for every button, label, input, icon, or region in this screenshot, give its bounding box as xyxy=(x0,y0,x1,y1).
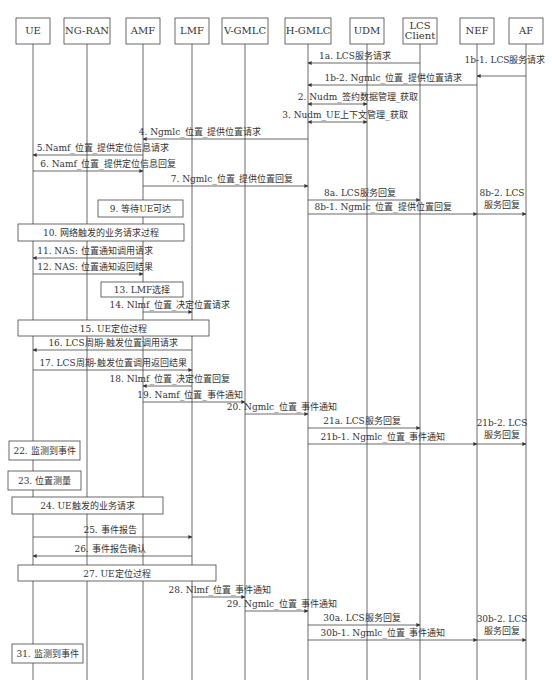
participant-ue: UE xyxy=(16,18,50,44)
process-box: 23. 位置测量 xyxy=(8,471,81,490)
message-arrow: 2. Nudm_签约数据管理_获取 xyxy=(298,91,418,104)
message-label: 25. 事件报告 xyxy=(83,524,136,535)
process-box: 31. 监测到事件 xyxy=(12,644,83,663)
message-label: 8b-1. Ngmlc_位置_提供位置回复 xyxy=(314,201,451,213)
participant-lmf: LMF xyxy=(175,18,209,44)
participant-label: NEF xyxy=(466,25,489,36)
message-arrow: 17. LCS周期-触发位置调用返回结果 xyxy=(33,357,192,370)
diagram-canvas: UENG-RANAMFLMFV-GMLCH-GMLCUDMLCSClientNE… xyxy=(0,0,552,687)
messages: 1a. LCS服务请求1b-1. LCS服务请求1b-2. Ngmlc_位置_提… xyxy=(33,50,546,640)
process-box-label: 13. LMF选择 xyxy=(114,284,171,295)
message-arrow: 18. Nlmf_位置_决定位置回复 xyxy=(110,373,231,386)
message-label: 30b-1. Ngmlc_位置_事件通知 xyxy=(321,627,446,639)
message-label: 12. NAS: 位置通知返回结果 xyxy=(37,261,153,272)
message-label: 1b-1. LCS服务请求 xyxy=(464,54,545,65)
message-arrow: 21a. LCS服务回复 xyxy=(308,415,420,428)
message-arrow: 25. 事件报告 xyxy=(33,524,192,537)
process-box: 22. 监测到事件 xyxy=(9,441,80,460)
message-arrow: 29. Ngmlc_位置_事件通知 xyxy=(227,598,337,611)
message-arrow: 6. Namf_位置_提供定位信息回复 xyxy=(33,158,176,171)
side-note-label: 服务回复 xyxy=(484,625,520,636)
message-arrow: 5.Namf_位置_提供定位信息请求 xyxy=(33,142,169,155)
message-label: 6. Namf_位置_提供定位信息回复 xyxy=(40,158,176,170)
side-note-label: 21b-2. LCS xyxy=(477,418,528,428)
message-label: 29. Ngmlc_位置_事件通知 xyxy=(227,598,337,610)
message-arrow: 19. Namf_位置_事件通知 xyxy=(137,389,245,402)
participant-label: AF xyxy=(518,25,533,36)
participant-af: AF xyxy=(509,18,543,44)
process-box-label: 10. 网络触发的业务请求过程 xyxy=(43,227,159,238)
message-arrow: 16. LCS周期-触发位置调用请求 xyxy=(33,337,192,350)
message-arrow: 1b-2. Ngmlc_位置_提供位置请求 xyxy=(308,72,477,85)
process-box: 13. LMF选择 xyxy=(101,282,183,297)
participant-ng-ran: NG-RAN xyxy=(64,18,110,44)
participants: UENG-RANAMFLMFV-GMLCH-GMLCUDMLCSClientNE… xyxy=(16,18,543,44)
process-box-label: 24. UE触发的业务请求 xyxy=(40,500,134,511)
message-arrow: 7. Ngmlc_位置_提供位置回复 xyxy=(143,173,308,186)
participant-label: UE xyxy=(25,25,41,36)
process-box: 15. UE定位过程 xyxy=(18,320,209,336)
participant-label: V-GMLC xyxy=(223,25,267,36)
message-arrow: 1a. LCS服务请求 xyxy=(308,50,420,63)
message-label: 21a. LCS服务回复 xyxy=(323,415,401,426)
message-label: 30a. LCS服务回复 xyxy=(323,612,401,623)
message-arrow: 28. Nlmf_位置_事件通知 xyxy=(169,584,272,597)
message-label: 16. LCS周期-触发位置调用请求 xyxy=(48,337,177,348)
participant-udm: UDM xyxy=(350,18,384,44)
message-label: 4. Ngmlc_位置_提供位置请求 xyxy=(139,126,262,138)
message-label: 18. Nlmf_位置_决定位置回复 xyxy=(110,373,231,385)
process-box: 9. 等待UE可达 xyxy=(98,200,183,217)
message-label: 1a. LCS服务请求 xyxy=(319,50,391,61)
message-label: 26. 事件报告确认 xyxy=(74,543,145,554)
participant-label: AMF xyxy=(130,25,155,36)
sequence-diagram: UENG-RANAMFLMFV-GMLCH-GMLCUDMLCSClientNE… xyxy=(0,0,552,687)
message-label: 20. Ngmlc_位置_事件通知 xyxy=(227,401,337,413)
message-arrow: 8a. LCS服务回复 xyxy=(308,187,420,200)
participant-label: LMF xyxy=(180,25,204,36)
participant-label: UDM xyxy=(354,25,381,36)
participant-amf: AMF xyxy=(126,18,160,44)
participant-v-gmlc: V-GMLC xyxy=(222,18,268,44)
process-box: 10. 网络触发的业务请求过程 xyxy=(18,224,184,241)
message-arrow: 14. Nlmf_位置_决定位置请求 xyxy=(110,299,231,312)
message-arrow: 30b-1. Ngmlc_位置_事件通知 xyxy=(308,627,477,640)
message-label: 3. Nudm_UE上下文管理_获取 xyxy=(282,109,408,121)
message-label: 8a. LCS服务回复 xyxy=(324,187,396,198)
message-label: 7. Ngmlc_位置_提供位置回复 xyxy=(171,173,294,185)
message-arrow: 21b-1. Ngmlc_位置_事件通知 xyxy=(308,431,477,444)
message-label: 1b-2. Ngmlc_位置_提供位置请求 xyxy=(324,72,461,84)
process-box-label: 27. UE定位过程 xyxy=(83,568,150,579)
side-note-label: 服务回复 xyxy=(484,199,520,210)
process-box-label: 22. 监测到事件 xyxy=(13,445,75,456)
participant-label: H-GMLC xyxy=(286,25,331,36)
side-note-label: 8b-2. LCS xyxy=(479,188,524,198)
message-label: 28. Nlmf_位置_事件通知 xyxy=(169,584,272,596)
message-label: 21b-1. Ngmlc_位置_事件通知 xyxy=(321,431,446,443)
message-label: 14. Nlmf_位置_决定位置请求 xyxy=(110,299,231,311)
process-box-label: 15. UE定位过程 xyxy=(80,323,147,334)
message-label: 5.Namf_位置_提供定位信息请求 xyxy=(37,142,170,154)
message-label: 19. Namf_位置_事件通知 xyxy=(137,389,242,401)
participant-label: Client xyxy=(405,30,435,41)
participant-nef: NEF xyxy=(460,18,494,44)
message-arrow: 11. NAS: 位置通知调用请求 xyxy=(33,245,153,258)
message-arrow: 30a. LCS服务回复 xyxy=(308,612,420,625)
message-label: 11. NAS: 位置通知调用请求 xyxy=(37,245,153,256)
message-arrow: 20. Ngmlc_位置_事件通知 xyxy=(227,401,337,414)
side-note-label: 30b-2. LCS xyxy=(477,614,528,624)
process-box: 27. UE定位过程 xyxy=(18,565,216,581)
message-arrow: 4. Ngmlc_位置_提供位置请求 xyxy=(139,126,308,139)
process-box-label: 31. 监测到事件 xyxy=(16,648,78,659)
process-box-label: 23. 位置测量 xyxy=(18,475,71,486)
message-label: 17. LCS周期-触发位置调用返回结果 xyxy=(39,357,186,368)
participant-h-gmlc: H-GMLC xyxy=(285,18,331,44)
message-label: 2. Nudm_签约数据管理_获取 xyxy=(298,91,418,103)
side-notes: 8b-2. LCS服务回复21b-2. LCS服务回复30b-2. LCS服务回… xyxy=(477,188,528,636)
process-box-label: 9. 等待UE可达 xyxy=(110,203,172,214)
message-arrow: 26. 事件报告确认 xyxy=(33,543,192,556)
side-note-label: 服务回复 xyxy=(484,429,520,440)
message-arrow: 3. Nudm_UE上下文管理_获取 xyxy=(282,109,408,122)
participant-lcs-client: LCSClient xyxy=(403,18,437,44)
message-arrow: 12. NAS: 位置通知返回结果 xyxy=(33,261,153,274)
process-box: 24. UE触发的业务请求 xyxy=(12,497,163,514)
